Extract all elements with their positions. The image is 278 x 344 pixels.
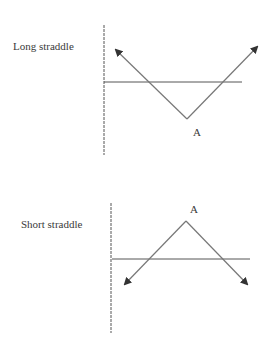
long-right-payoff-arrow	[187, 47, 257, 119]
short-strike-label-a: A	[190, 203, 198, 215]
short-straddle-chart	[111, 203, 250, 333]
long-strike-label-a: A	[193, 126, 201, 138]
short-left-payoff-arrow	[125, 221, 186, 284]
long-straddle-chart	[104, 25, 257, 155]
short-straddle-title: Short straddle	[21, 218, 82, 230]
long-straddle-title: Long straddle	[13, 40, 74, 52]
short-right-payoff-arrow	[186, 221, 247, 284]
long-left-payoff-arrow	[116, 50, 187, 119]
